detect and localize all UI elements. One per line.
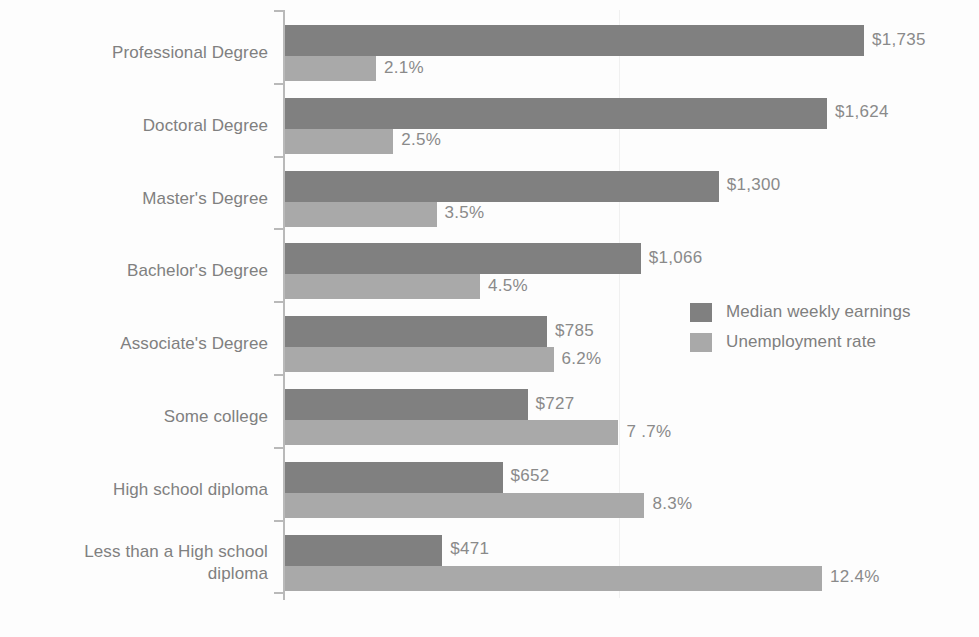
category-label: Professional Degree xyxy=(0,42,268,64)
category-label: Some college xyxy=(0,406,268,428)
bar-unemployment[interactable] xyxy=(285,56,376,81)
category-label: Associate's Degree xyxy=(0,333,268,355)
value-label-unemployment: 3.5% xyxy=(445,203,485,223)
legend-swatch-unemployment-icon xyxy=(690,333,712,352)
value-label-earnings: $1,735 xyxy=(872,30,926,50)
bar-earnings[interactable] xyxy=(285,462,503,493)
axis-tick xyxy=(274,228,284,230)
chart-legend: Median weekly earnings Unemployment rate xyxy=(690,297,911,357)
axis-tick xyxy=(274,156,284,158)
bar-unemployment[interactable] xyxy=(285,129,393,154)
legend-label-unemployment: Unemployment rate xyxy=(726,332,876,352)
axis-tick xyxy=(274,520,284,522)
bar-earnings[interactable] xyxy=(285,171,719,202)
value-label-unemployment: 2.5% xyxy=(401,130,441,150)
value-label-earnings: $1,300 xyxy=(727,175,781,195)
bar-unemployment[interactable] xyxy=(285,202,437,227)
category-label: Bachelor's Degree xyxy=(0,260,268,282)
value-label-unemployment: 12.4% xyxy=(830,567,880,587)
bar-unemployment[interactable] xyxy=(285,347,554,372)
bar-earnings[interactable] xyxy=(285,316,547,347)
bar-earnings[interactable] xyxy=(285,25,864,56)
value-label-earnings: $1,066 xyxy=(649,248,703,268)
value-label-earnings: $652 xyxy=(511,466,550,486)
category-label: Master's Degree xyxy=(0,188,268,210)
legend-swatch-earnings-icon xyxy=(690,303,712,322)
value-label-unemployment: 7 .7% xyxy=(626,422,671,442)
value-label-unemployment: 8.3% xyxy=(652,494,692,514)
axis-tick xyxy=(274,374,284,376)
value-label-earnings: $1,624 xyxy=(835,102,889,122)
axis-tick xyxy=(274,301,284,303)
bar-chart: Professional DegreeDoctoral DegreeMaster… xyxy=(0,0,979,637)
value-label-earnings: $785 xyxy=(555,321,594,341)
bar-earnings[interactable] xyxy=(285,389,528,420)
legend-item-earnings[interactable]: Median weekly earnings xyxy=(690,297,911,327)
bar-unemployment[interactable] xyxy=(285,566,822,591)
axis-tick xyxy=(274,447,284,449)
axis-tick xyxy=(274,592,284,594)
legend-label-earnings: Median weekly earnings xyxy=(726,302,911,322)
axis-tick xyxy=(274,10,284,12)
value-label-unemployment: 4.5% xyxy=(488,276,528,296)
category-label: Less than a High school diploma xyxy=(0,541,268,585)
value-label-earnings: $727 xyxy=(536,394,575,414)
category-label: Doctoral Degree xyxy=(0,115,268,137)
axis-tick xyxy=(274,83,284,85)
value-label-unemployment: 6.2% xyxy=(562,349,602,369)
bar-earnings[interactable] xyxy=(285,243,641,274)
value-label-unemployment: 2.1% xyxy=(384,58,424,78)
value-label-earnings: $471 xyxy=(450,539,489,559)
bar-earnings[interactable] xyxy=(285,535,442,566)
legend-item-unemployment[interactable]: Unemployment rate xyxy=(690,327,911,357)
bar-unemployment[interactable] xyxy=(285,493,644,518)
bar-unemployment[interactable] xyxy=(285,274,480,299)
bar-unemployment[interactable] xyxy=(285,420,618,445)
bar-earnings[interactable] xyxy=(285,98,827,129)
category-label: High school diploma xyxy=(0,479,268,501)
